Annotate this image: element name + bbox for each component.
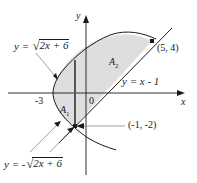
label-point-minus1-minus2: (-1, -2): [128, 120, 156, 130]
leader-lower-line: [50, 127, 74, 152]
label-parabola-lower-equation: y = -√2x + 6: [4, 158, 63, 171]
radicand-upper: 2x + 6: [39, 39, 70, 51]
math-figure: y = √2x + 6 y = -√2x + 6 y = x - 1 (5, 4…: [0, 0, 197, 183]
label-x-tick-minus-3: -3: [35, 96, 43, 106]
label-area-a1-subscript: 1: [66, 110, 69, 117]
label-parabola-upper-equation: y = √2x + 6: [14, 40, 69, 53]
radical-lower: √2x + 6: [25, 158, 63, 171]
label-parabola-upper-prefix: y =: [14, 40, 32, 52]
label-axis-x: x: [181, 97, 185, 107]
label-parabola-lower-prefix: y = -: [4, 158, 25, 170]
label-area-a2-subscript: 2: [115, 62, 118, 69]
label-area-a2: A2: [109, 57, 119, 70]
radical-upper: √2x + 6: [32, 40, 70, 53]
label-line-equation: y = x - 1: [122, 76, 159, 87]
leader-point-minus1-minus2: [76, 123, 125, 129]
figure-canvas: [0, 0, 197, 183]
label-point-5-4: (5, 4): [157, 43, 179, 53]
label-origin: 0: [89, 96, 94, 106]
point-dot-5-4: [150, 39, 154, 43]
label-axis-y: y: [76, 11, 80, 21]
leader-lower-parabola: [30, 121, 61, 152]
radicand-lower: 2x + 6: [32, 157, 63, 169]
leader-upper-parabola: [36, 53, 58, 80]
label-area-a1: A1: [60, 105, 70, 118]
